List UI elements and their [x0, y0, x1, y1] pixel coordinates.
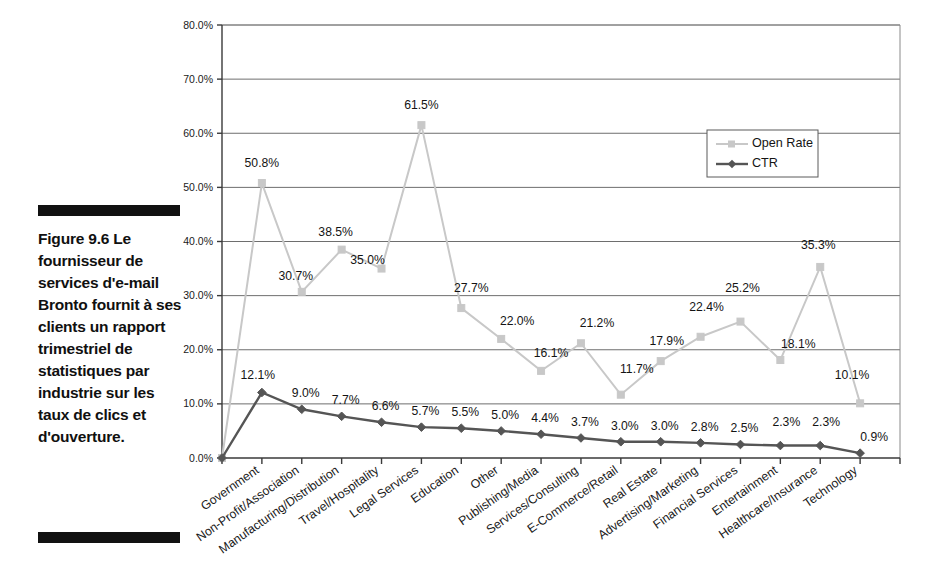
data-point-marker — [617, 437, 626, 446]
data-label: 3.0% — [651, 419, 679, 433]
data-label: 30.7% — [278, 269, 313, 283]
data-point-marker — [737, 318, 744, 325]
data-label: 5.7% — [412, 404, 440, 418]
line-chart: 0.0%10.0%20.0%30.0%40.0%50.0%60.0%70.0%8… — [0, 0, 947, 578]
data-point-marker — [498, 335, 505, 342]
data-point-marker — [258, 180, 265, 187]
y-tick-label: 70.0% — [183, 73, 213, 85]
data-label: 17.9% — [649, 334, 684, 348]
series-line-ctr — [222, 393, 860, 458]
data-point-marker — [338, 246, 345, 253]
data-point-marker — [736, 440, 745, 449]
data-point-marker — [377, 418, 386, 427]
y-tick-label: 50.0% — [183, 181, 213, 193]
data-point-marker — [458, 305, 465, 312]
data-point-marker — [657, 358, 664, 365]
legend-label: CTR — [752, 156, 778, 170]
data-label: 11.7% — [620, 362, 654, 376]
data-label: 9.0% — [292, 386, 320, 400]
data-point-marker — [538, 367, 545, 374]
y-tick-label: 60.0% — [183, 127, 213, 139]
x-axis-ticks: GovernmentNon-Profit/AssociationManufact… — [194, 458, 900, 556]
data-point-marker — [297, 405, 306, 414]
data-label: 3.7% — [571, 415, 599, 429]
figure-root: Figure 9.6 Le fournisseur de services d'… — [0, 0, 947, 578]
chart-container: 0.0%10.0%20.0%30.0%40.0%50.0%60.0%70.0%8… — [0, 0, 947, 578]
data-point-marker — [417, 423, 426, 432]
y-tick-label: 20.0% — [183, 343, 213, 355]
data-label: 5.0% — [491, 408, 519, 422]
legend-label: Open Rate — [752, 136, 813, 150]
y-tick-label: 10.0% — [183, 397, 213, 409]
data-label: 38.5% — [318, 225, 353, 239]
y-tick-label: 0.0% — [189, 452, 213, 464]
data-label: 25.2% — [725, 281, 760, 295]
data-label: 7.7% — [332, 393, 360, 407]
data-label: 61.5% — [404, 98, 439, 112]
data-point-marker — [817, 263, 824, 270]
data-label: 12.1% — [241, 368, 276, 382]
data-label: 0.9% — [860, 430, 888, 444]
y-tick-label: 30.0% — [183, 289, 213, 301]
data-point-marker — [697, 333, 704, 340]
plot-frame — [222, 25, 900, 460]
data-point-marker — [857, 400, 864, 407]
y-axis-ticks: 0.0%10.0%20.0%30.0%40.0%50.0%60.0%70.0%8… — [183, 19, 222, 464]
chart-legend: Open RateCTR — [707, 130, 818, 177]
data-point-marker — [497, 427, 506, 436]
data-label: 27.7% — [454, 281, 489, 295]
data-label: 35.3% — [801, 238, 836, 252]
data-label: 2.8% — [691, 420, 719, 434]
data-label: 21.2% — [580, 316, 615, 330]
legend-marker — [728, 141, 735, 148]
data-point-marker — [457, 424, 466, 433]
data-label: 5.5% — [451, 405, 479, 419]
y-tick-label: 80.0% — [183, 19, 213, 31]
data-label: 2.5% — [731, 421, 759, 435]
x-axis-category-label: Legal Services — [347, 463, 421, 521]
data-point-marker — [776, 441, 785, 450]
data-label: 50.8% — [245, 156, 280, 170]
data-label: 2.3% — [812, 415, 840, 429]
data-point-marker — [577, 434, 586, 443]
data-label: 4.4% — [531, 411, 559, 425]
data-label: 10.1% — [835, 368, 870, 382]
data-label: 18.1% — [781, 337, 816, 351]
data-point-marker — [856, 449, 865, 458]
data-point-marker — [696, 439, 705, 448]
data-point-marker — [298, 288, 305, 295]
data-label: 2.3% — [772, 415, 800, 429]
data-label: 35.0% — [350, 253, 385, 267]
data-point-marker — [577, 340, 584, 347]
data-label: 3.0% — [611, 419, 639, 433]
data-point-marker — [816, 441, 825, 450]
data-label: 16.1% — [534, 346, 569, 360]
data-point-marker — [656, 437, 665, 446]
data-point-marker — [537, 430, 546, 439]
data-point-marker — [617, 391, 624, 398]
data-point-marker — [337, 412, 346, 421]
data-label: 22.0% — [500, 314, 535, 328]
data-point-marker — [777, 357, 784, 364]
data-label: 6.6% — [372, 399, 400, 413]
data-point-marker — [418, 122, 425, 129]
y-tick-label: 40.0% — [183, 235, 213, 247]
data-label: 22.4% — [689, 300, 724, 314]
